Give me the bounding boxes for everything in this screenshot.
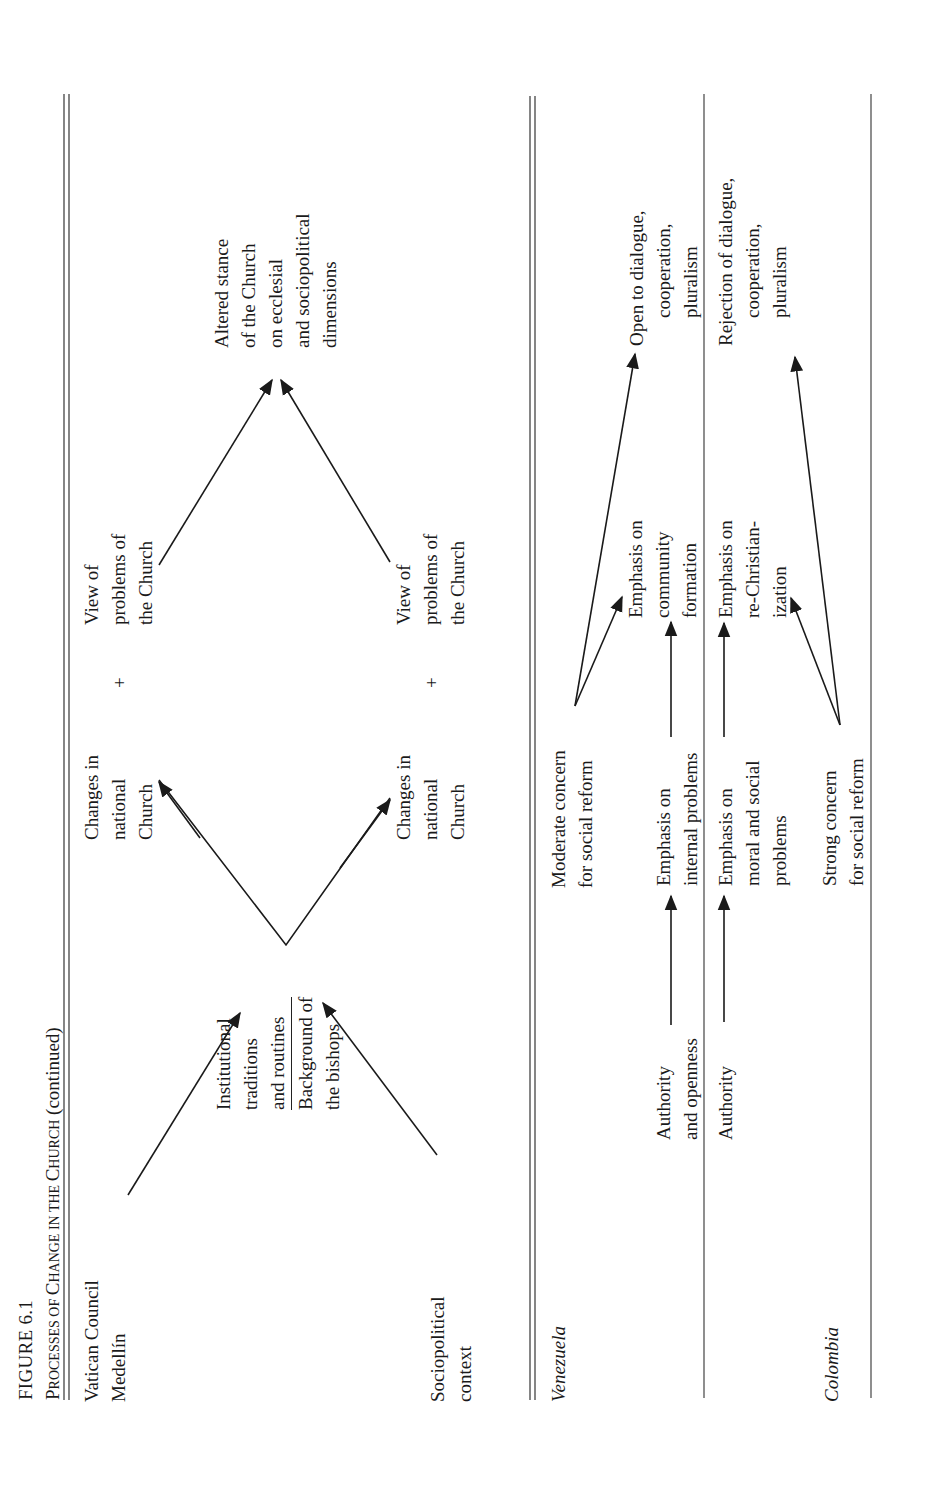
node-view-upper: View of problems of the Church xyxy=(78,534,159,625)
plus-sign-lower: + xyxy=(418,677,445,688)
figure-header: FIGURE 6.1 Processes of Change in the Ch… xyxy=(12,1027,68,1400)
node-view-lower: View of problems of the Church xyxy=(390,534,471,625)
node-emphasis-rechristianization: Emphasis on re-Christian- ization xyxy=(712,520,793,618)
node-authority-colombia: Authority xyxy=(712,1066,739,1140)
node-strong-concern: Strong concern for social reform xyxy=(816,758,870,886)
diagram-lines xyxy=(0,0,943,1492)
figure-label: FIGURE 6.1 xyxy=(12,1027,39,1400)
arrow-to-changes-upper xyxy=(159,782,200,838)
arrow-to-changes-lower xyxy=(340,800,390,868)
node-open-dialogue: Open to dialogue, cooperation, pluralism xyxy=(623,210,704,346)
node-sociopolitical-context: Sociopolitical context xyxy=(424,1296,478,1402)
arrow-view-lower-to-result xyxy=(281,380,390,562)
country-label-venezuela: Venezuela xyxy=(545,1326,572,1402)
node-institutional-traditions: Institutional traditions and routines Ba… xyxy=(210,997,346,1110)
node-vatican-council: Vatican Council Medellín xyxy=(78,1280,132,1402)
plus-sign-upper: + xyxy=(106,677,133,688)
node-background-bishops: Background of xyxy=(291,997,319,1110)
figure-page: FIGURE 6.1 Processes of Change in the Ch… xyxy=(0,0,943,1492)
node-emphasis-community: Emphasis on community formation xyxy=(622,520,703,618)
node-emphasis-moral: Emphasis on moral and social problems xyxy=(712,760,793,886)
node-moderate-concern: Moderate concern for social reform xyxy=(545,750,599,888)
arrow-view-upper-to-result xyxy=(159,380,272,565)
node-changes-lower: Changes in national Church xyxy=(390,755,471,840)
figure-title: Processes of Change in the Church (conti… xyxy=(39,1027,68,1400)
arrow-strong-to-rejection xyxy=(795,357,840,725)
node-altered-stance: Altered stance of the Church on ecclesia… xyxy=(208,213,343,348)
node-emphasis-internal: Emphasis on internal problems xyxy=(650,753,704,887)
double-rule-middle xyxy=(530,96,535,1400)
arrow-junction xyxy=(159,780,390,945)
node-authority-openness: Authority and openness xyxy=(650,1038,704,1140)
node-rejection-dialogue: Rejection of dialogue, cooperation, plur… xyxy=(712,178,793,346)
arrow-moderate-to-community xyxy=(575,597,622,706)
country-label-colombia: Colombia xyxy=(818,1327,845,1402)
node-changes-upper: Changes in national Church xyxy=(78,755,159,840)
